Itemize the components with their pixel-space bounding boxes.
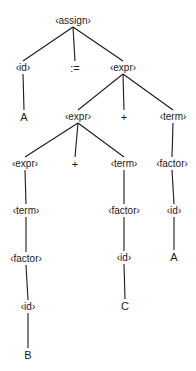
terminal-node: C <box>120 301 130 312</box>
tree-edge <box>123 74 173 110</box>
nonterminal-node: ‹expr› <box>109 63 137 73</box>
tree-edge <box>123 74 124 110</box>
nonterminal-node: ‹id› <box>166 206 182 216</box>
nonterminal-node: ‹assign› <box>54 16 92 26</box>
nonterminal-node: ‹factor› <box>155 159 189 169</box>
tree-edge <box>172 170 174 204</box>
nonterminal-node: ‹expr› <box>11 159 39 169</box>
tree-edge <box>26 265 28 300</box>
nonterminal-node: ‹expr› <box>64 112 92 122</box>
terminal-node: := <box>69 63 80 74</box>
nonterminal-node: ‹term› <box>12 206 41 216</box>
tree-edge <box>78 123 124 157</box>
terminal-node: A <box>19 112 28 123</box>
tree-edges <box>0 0 196 371</box>
tree-edge <box>25 123 78 157</box>
nonterminal-node: ‹id› <box>116 253 132 263</box>
tree-edge <box>73 27 123 61</box>
nonterminal-node: ‹id› <box>20 302 36 312</box>
nonterminal-node: ‹term› <box>159 112 188 122</box>
tree-edge <box>73 27 75 61</box>
terminal-node: B <box>23 350 32 361</box>
tree-edge <box>23 74 24 110</box>
tree-edge <box>172 123 173 157</box>
terminal-node: + <box>120 112 128 123</box>
tree-edge <box>75 123 78 157</box>
nonterminal-node: ‹id› <box>15 63 31 73</box>
nonterminal-node: ‹factor› <box>9 254 43 264</box>
terminal-node: + <box>71 159 79 170</box>
tree-edge <box>78 74 123 110</box>
terminal-node: A <box>169 252 178 263</box>
nonterminal-node: ‹factor› <box>107 206 141 216</box>
nonterminal-node: ‹term› <box>110 159 139 169</box>
tree-edge <box>124 264 125 299</box>
tree-edge <box>23 27 73 61</box>
tree-edge <box>25 170 26 204</box>
